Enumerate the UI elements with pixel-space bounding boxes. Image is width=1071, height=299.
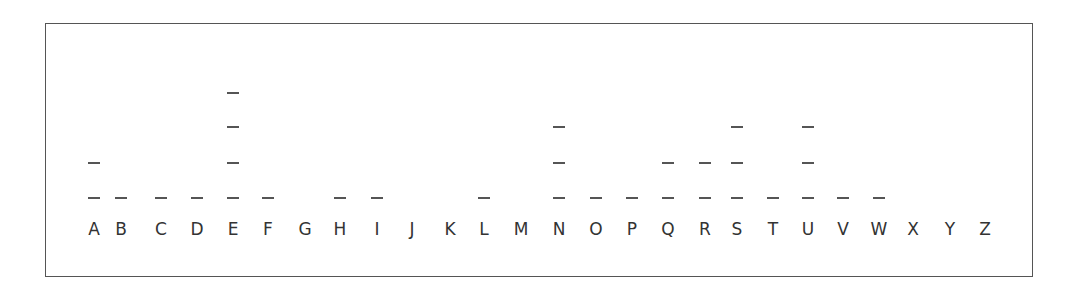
dash-marker — [662, 197, 674, 199]
dash-marker — [767, 197, 779, 199]
dash-marker — [191, 197, 203, 199]
category-label: T — [758, 218, 788, 240]
category-label: J — [397, 218, 427, 240]
category-column-z: Z — [970, 0, 1000, 299]
dash-marker — [227, 126, 239, 128]
category-label: I — [362, 218, 392, 240]
category-label: M — [506, 218, 536, 240]
category-label: E — [218, 218, 248, 240]
category-column-c: C — [146, 0, 176, 299]
dash-marker — [626, 197, 638, 199]
dash-marker — [227, 92, 239, 94]
category-label: L — [469, 218, 499, 240]
category-label: F — [253, 218, 283, 240]
category-label: S — [722, 218, 752, 240]
category-column-p: P — [617, 0, 647, 299]
category-label: W — [864, 218, 894, 240]
category-column-b: B — [106, 0, 136, 299]
dash-marker — [155, 197, 167, 199]
category-column-e: E — [218, 0, 248, 299]
category-label: A — [79, 218, 109, 240]
category-column-h: H — [325, 0, 355, 299]
category-column-f: F — [253, 0, 283, 299]
dash-marker — [837, 197, 849, 199]
dash-marker — [873, 197, 885, 199]
category-label: R — [690, 218, 720, 240]
dash-marker — [227, 162, 239, 164]
category-label: G — [290, 218, 320, 240]
category-column-r: R — [690, 0, 720, 299]
category-label: U — [793, 218, 823, 240]
category-column-d: D — [182, 0, 212, 299]
category-label: O — [581, 218, 611, 240]
category-column-q: Q — [653, 0, 683, 299]
category-label: Y — [935, 218, 965, 240]
dash-marker — [115, 197, 127, 199]
dash-marker — [262, 197, 274, 199]
category-label: K — [435, 218, 465, 240]
dash-marker — [662, 162, 674, 164]
category-column-x: X — [898, 0, 928, 299]
dash-marker — [802, 162, 814, 164]
category-column-t: T — [758, 0, 788, 299]
category-label: X — [898, 218, 928, 240]
category-column-v: V — [828, 0, 858, 299]
category-label: Q — [653, 218, 683, 240]
category-label: D — [182, 218, 212, 240]
dash-marker — [88, 197, 100, 199]
dash-marker — [88, 162, 100, 164]
dash-marker — [699, 162, 711, 164]
category-column-y: Y — [935, 0, 965, 299]
dash-marker — [802, 197, 814, 199]
dash-marker — [553, 162, 565, 164]
category-column-l: L — [469, 0, 499, 299]
dash-marker — [553, 126, 565, 128]
dash-marker — [802, 126, 814, 128]
category-column-k: K — [435, 0, 465, 299]
category-column-j: J — [397, 0, 427, 299]
dash-marker — [478, 197, 490, 199]
dash-marker — [371, 197, 383, 199]
dash-marker — [731, 162, 743, 164]
category-label: N — [544, 218, 574, 240]
category-column-o: O — [581, 0, 611, 299]
category-label: H — [325, 218, 355, 240]
category-label: C — [146, 218, 176, 240]
dash-marker — [590, 197, 602, 199]
category-label: V — [828, 218, 858, 240]
dash-marker — [553, 197, 565, 199]
category-label: Z — [970, 218, 1000, 240]
category-label: P — [617, 218, 647, 240]
dash-marker — [731, 126, 743, 128]
dash-marker — [227, 197, 239, 199]
category-column-a: A — [79, 0, 109, 299]
category-column-m: M — [506, 0, 536, 299]
dash-marker — [334, 197, 346, 199]
category-column-w: W — [864, 0, 894, 299]
dash-marker — [699, 197, 711, 199]
dash-marker — [731, 197, 743, 199]
category-label: B — [106, 218, 136, 240]
category-column-n: N — [544, 0, 574, 299]
category-column-i: I — [362, 0, 392, 299]
category-column-u: U — [793, 0, 823, 299]
category-column-g: G — [290, 0, 320, 299]
category-column-s: S — [722, 0, 752, 299]
